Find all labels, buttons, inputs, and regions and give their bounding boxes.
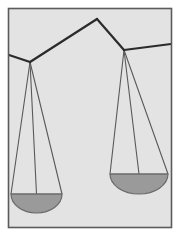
figure-root: Balance scale A two-pan balance scale ti… xyxy=(0,0,179,237)
balance-scale-figure: Balance scale A two-pan balance scale ti… xyxy=(0,0,179,237)
